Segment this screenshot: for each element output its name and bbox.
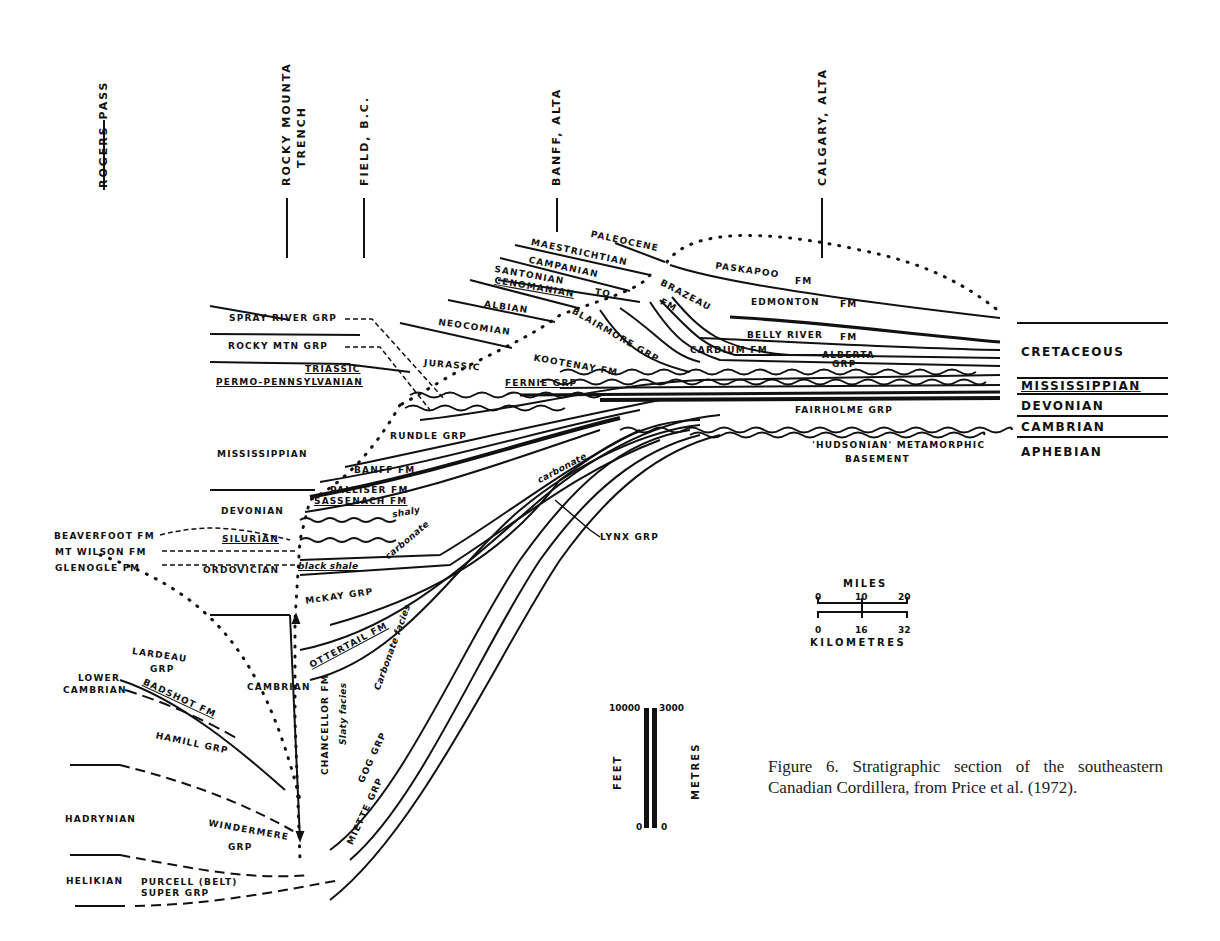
label-beaverfoot: BEAVERFOOT FM: [54, 531, 155, 541]
label-permo-pennsylvanian: PERMO-PENNSYLVANIAN: [216, 377, 363, 387]
label-fairholme: FAIRHOLME GRP: [795, 405, 893, 415]
label-mt-wilson: MT WILSON FM: [55, 547, 147, 557]
label-edmonton: EDMONTON: [751, 297, 820, 307]
scale-metres-bottom: 0: [661, 822, 667, 832]
label-lardeau-grp: GRP: [150, 664, 175, 674]
label-paskapoo-fm: FM: [795, 276, 813, 286]
label-belly-river: BELLY RIVER: [747, 330, 823, 340]
label-basement: BASEMENT: [845, 454, 910, 464]
label-cambrian: CAMBRIAN: [247, 682, 311, 692]
scale-km-16: 16: [855, 625, 868, 635]
scale-miles-title: MILES: [843, 578, 887, 589]
scale-miles-20: 20: [898, 592, 911, 602]
location-rocky-mountain-trench-2: TRENCH: [295, 106, 308, 168]
label-hudsonian: 'HUDSONIAN' METAMORPHIC: [812, 440, 985, 450]
label-slaty-facies: Slaty facies: [338, 683, 348, 745]
label-silurian: SILURIAN: [222, 534, 279, 544]
vertical-scale-bar: [644, 708, 657, 828]
label-ordovician: ORDOVICIAN: [203, 565, 279, 575]
label-windermere-grp: GRP: [228, 842, 253, 852]
scale-feet-top: 10000: [609, 703, 640, 713]
label-chancellor: CHANCELLOR FM: [320, 674, 330, 775]
period-devonian: DEVONIAN: [1021, 399, 1104, 413]
label-mississippian: MISSISSIPPIAN: [217, 449, 308, 459]
label-spray-river: SPRAY RIVER GRP: [229, 313, 337, 323]
period-aphebian: APHEBIAN: [1021, 445, 1102, 459]
scale-metres-top: 3000: [659, 703, 684, 713]
location-rocky-mountain-trench: ROCKY MOUNTA: [280, 62, 293, 186]
location-calgary-alta: CALGARY, ALTA: [816, 68, 829, 186]
label-fernie: FERNIE GRP: [505, 378, 577, 388]
figure-caption: Figure 6. Stratigraphic section of the s…: [768, 756, 1163, 798]
label-hadrynian: HADRYNIAN: [65, 814, 136, 824]
location-field-bc: FIELD, B.C.: [358, 96, 371, 186]
label-purcell-super: SUPER GRP: [141, 888, 209, 898]
label-glenogle: GLENOGLE FM: [55, 563, 140, 573]
period-mississippian: MISSISSIPPIAN: [1021, 379, 1141, 393]
scale-feet-bottom: 0: [636, 822, 642, 832]
label-palliser: PALLISER FM: [330, 485, 409, 495]
label-edmonton-fm: FM: [840, 299, 858, 309]
label-helikian: HELIKIAN: [66, 876, 123, 886]
label-alberta-grp: GRP: [832, 359, 857, 369]
label-lower-cambrian: CAMBRIAN: [63, 685, 127, 695]
scale-miles-0: 0: [815, 592, 821, 602]
label-banff: BANFF FM: [354, 465, 416, 475]
label-rundle: RUNDLE GRP: [390, 431, 467, 441]
label-triassic: TRIASSIC: [305, 364, 361, 374]
label-purcell: PURCELL (BELT): [141, 877, 238, 887]
period-cambrian: CAMBRIAN: [1021, 420, 1105, 434]
label-cardium: CARDIUM FM: [690, 345, 768, 355]
label-belly-river-fm: FM: [840, 332, 858, 342]
label-rocky-mtn: ROCKY MTN GRP: [228, 341, 328, 351]
scale-feet-label: FEET: [612, 755, 623, 790]
label-devonian: DEVONIAN: [221, 506, 284, 516]
period-cretaceous: CRETACEOUS: [1021, 345, 1124, 359]
label-black-shale: black shale: [298, 561, 358, 571]
scale-km-32: 32: [898, 625, 911, 635]
label-sassenach: SASSENACH FM: [314, 496, 407, 506]
location-markers: [104, 120, 822, 258]
scale-miles-10: 10: [855, 592, 868, 602]
scale-km-title: KILOMETRES: [810, 637, 906, 648]
label-lower: LOWER: [78, 673, 120, 683]
scale-metres-label: METRES: [690, 743, 701, 800]
stratigraphic-section-drawing: [0, 0, 1220, 941]
scale-km-0: 0: [815, 625, 821, 635]
location-banff-alta: BANFF, ALTA: [550, 88, 563, 186]
location-rogers-pass: ROGERS PASS: [97, 80, 110, 188]
label-lynx: LYNX GRP: [600, 532, 659, 542]
